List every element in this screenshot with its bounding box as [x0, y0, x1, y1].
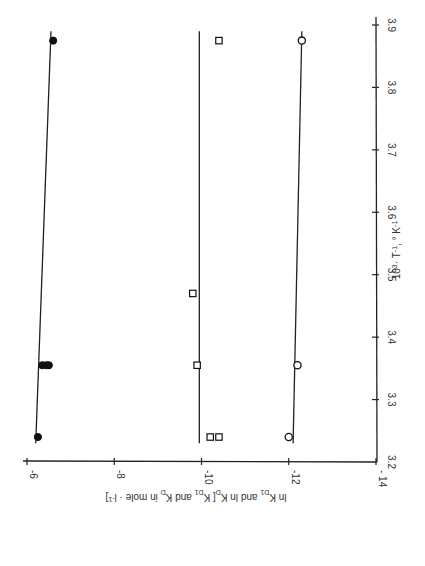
value-axis-tick-label: -12 [290, 470, 301, 485]
arrhenius-plot: -6-8-10-12- 14 3.23.33.43.53.63.73.83.9 … [0, 0, 425, 566]
svg-text:103· T-1, ° K-1: 103· T-1, ° K-1 [391, 221, 403, 280]
svg-text:3.6: 3.6 [386, 205, 397, 219]
value-axis-tick-label: -8 [115, 470, 126, 479]
fit-lines [36, 31, 302, 443]
filled-circle-marker [45, 362, 52, 369]
value-axis-title: ln KD1 and ln KD[ KD1 and KD in mole · l… [105, 490, 286, 504]
open-square-marker [207, 434, 213, 440]
temperature-axis-tick-label: 3.6 [386, 205, 397, 219]
temperature-axis-line [376, 17, 377, 462]
svg-text:3.7: 3.7 [386, 143, 397, 157]
fit-line [36, 31, 51, 443]
open-circle-marker [285, 433, 292, 440]
svg-text:-10: -10 [203, 470, 214, 485]
temperature-axis-tick-label: 3.7 [386, 143, 397, 157]
svg-text:-8: -8 [115, 470, 126, 479]
open-square-marker [216, 37, 222, 43]
svg-text:-12: -12 [290, 470, 301, 485]
open-square-marker [194, 362, 200, 368]
value-axis-tick-label: -6 [28, 470, 39, 479]
filled-circle-marker [50, 37, 57, 44]
svg-text:3.2: 3.2 [386, 455, 397, 469]
value-axis-tick-labels: -6-8-10-12- 14 [28, 470, 388, 488]
svg-text:3.8: 3.8 [386, 80, 397, 94]
open-square-marker [190, 290, 196, 296]
open-circle-marker [298, 37, 305, 44]
value-axis-tick-label: - 14 [377, 470, 388, 488]
open-square-marker [216, 434, 222, 440]
temperature-axis-tick-label: 3.8 [386, 80, 397, 94]
value-axis-tick-label: -10 [203, 470, 214, 485]
svg-text:-6: -6 [28, 470, 39, 479]
value-axis-line [23, 461, 377, 462]
svg-text:ln KD1 and ln KD[ KD1 and KD: ln KD1 and ln KD[ KD1 and KD in mole · l… [105, 490, 286, 504]
svg-text:3.9: 3.9 [386, 18, 397, 32]
axes [23, 17, 377, 462]
temperature-axis-tick-label: 3.9 [386, 18, 397, 32]
svg-text:3.3: 3.3 [386, 393, 397, 407]
temperature-axis-tick-label: 3.2 [386, 455, 397, 469]
temperature-axis-tick-label: 3.4 [386, 330, 397, 344]
svg-text:3.4: 3.4 [386, 330, 397, 344]
temperature-axis-title: 103· T-1, ° K-1 [391, 221, 403, 280]
data-markers [34, 37, 305, 441]
open-circle-marker [294, 362, 301, 369]
svg-text:- 14: - 14 [377, 470, 388, 488]
temperature-axis-tick-label: 3.3 [386, 393, 397, 407]
fit-line [293, 31, 302, 443]
filled-circle-marker [34, 433, 41, 440]
